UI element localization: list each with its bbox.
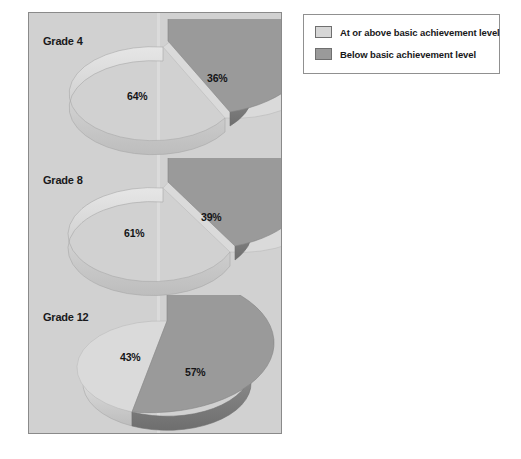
pie-value-grade-12-below: 57% (185, 366, 205, 378)
legend-swatch-below-icon (315, 48, 332, 60)
legend-label-below: Below basic achievement level (340, 49, 476, 60)
pie-chart-panel: Grade 4 (28, 12, 282, 434)
pie-graphic-grade-4 (55, 19, 281, 159)
pie-value-grade-8-above: 61% (124, 227, 144, 239)
pie-chart-grade-12: Grade 12 5 (29, 295, 283, 435)
pie-graphic-grade-8 (55, 158, 281, 298)
legend-swatch-at-or-above-icon (315, 26, 332, 38)
legend-item-below: Below basic achievement level (315, 48, 476, 60)
pie-value-grade-8-below: 39% (201, 211, 221, 223)
pie-chart-grade-4: Grade 4 (29, 19, 283, 159)
slice-below-grade-12 (132, 295, 274, 430)
chart-legend: At or above basic achievement level Belo… (303, 14, 500, 74)
legend-label-at-or-above: At or above basic achievement level (340, 27, 500, 38)
pie-value-grade-4-above: 64% (127, 90, 147, 102)
pie-value-grade-12-above: 43% (120, 351, 140, 363)
pie-graphic-grade-12 (55, 295, 281, 435)
pie-chart-grade-8: Grade 8 39 (29, 158, 283, 298)
legend-item-at-or-above: At or above basic achievement level (315, 26, 500, 38)
pie-value-grade-4-below: 36% (207, 72, 227, 84)
